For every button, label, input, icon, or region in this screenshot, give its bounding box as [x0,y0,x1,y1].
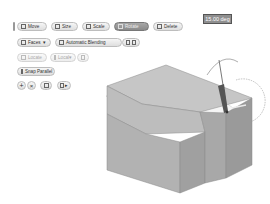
3d-model-viewport[interactable] [0,0,270,204]
rotation-arc [207,59,238,75]
rotation-pivot-icon[interactable] [226,111,229,114]
model-side-face [180,132,205,193]
